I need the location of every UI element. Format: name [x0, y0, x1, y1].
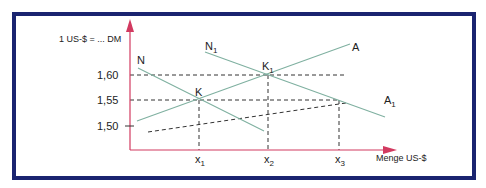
x-tick-x2: x2 — [264, 153, 275, 168]
curve-N1 — [205, 52, 385, 117]
curve-label-A1: A1 — [384, 94, 396, 109]
x-tick-x1: x1 — [195, 153, 206, 168]
curve-label-A: A — [352, 41, 360, 53]
y-axis-label: 1 US-$ = ... DM — [59, 34, 121, 44]
curve-A1 — [148, 103, 346, 132]
tick-label-160: 1,60 — [97, 69, 118, 81]
dashed-guides — [130, 75, 346, 150]
curve-A — [137, 44, 350, 121]
curves — [137, 44, 385, 131]
curve-label-N: N — [137, 54, 145, 66]
tick-label-155: 1,55 — [97, 94, 118, 106]
x-axis-label: Menge US-$ — [376, 153, 427, 163]
x-tick-x3: x3 — [335, 153, 346, 168]
tick-label-150: 1,50 — [97, 120, 118, 132]
point-label-K: K — [195, 86, 203, 98]
exchange-rate-chart: 1 US-$ = ... DM 1,60 1,55 1,50 x1 x2 x3 … — [0, 0, 486, 188]
y-axis-arrow-icon — [126, 19, 134, 32]
axes — [130, 30, 385, 150]
